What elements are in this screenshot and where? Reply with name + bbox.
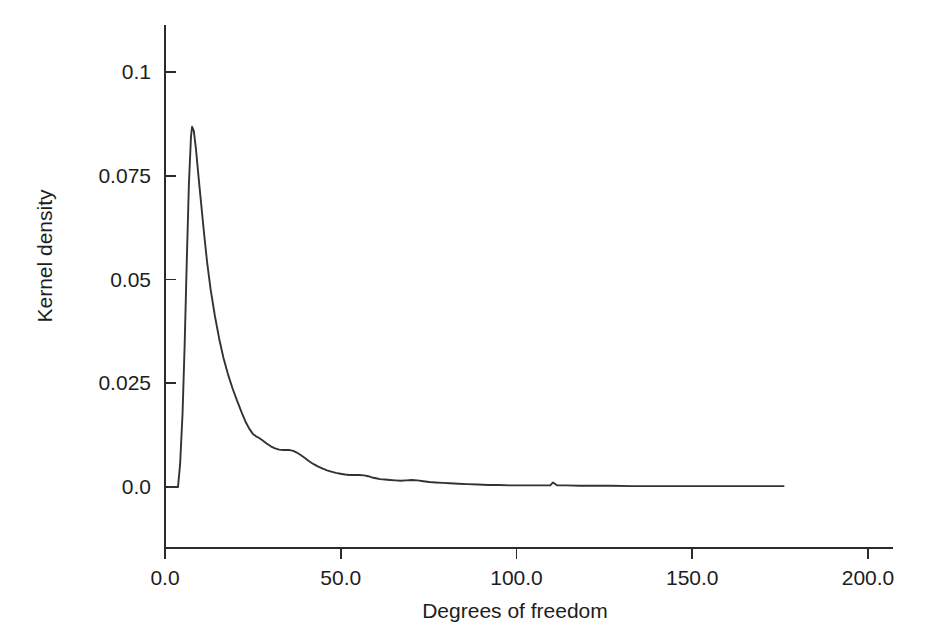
x-axis-tick-label: 150.0 [666,566,719,589]
y-axis-tick-label: 0.025 [98,371,151,394]
y-axis-tick-label-group: 0.00.0250.050.0750.1 [98,60,151,498]
density-plot-canvas: 0.00.0250.050.0750.1 0.050.0100.0150.020… [0,0,929,642]
y-axis-tick-label: 0.075 [98,164,151,187]
x-axis-tick-label: 200.0 [842,566,895,589]
kernel-density-curve [168,127,784,487]
x-axis-title: Degrees of freedom [422,599,608,622]
y-axis-tick-label: 0.05 [110,268,151,291]
x-axis-tick-label: 100.0 [490,566,543,589]
kernel-density-figure: 0.00.0250.050.0750.1 0.050.0100.0150.020… [0,0,929,642]
x-axis-tick-label: 0.0 [150,566,179,589]
y-axis-tick-label: 0.0 [122,475,151,498]
x-axis-tick-label-group: 0.050.0100.0150.0200.0 [150,566,894,589]
x-axis-tick-label: 50.0 [320,566,361,589]
x-axis-tick-group [165,548,868,559]
y-axis-tick-group [165,72,176,487]
y-axis-tick-label: 0.1 [122,60,151,83]
y-axis-title: Kernel density [33,189,56,323]
